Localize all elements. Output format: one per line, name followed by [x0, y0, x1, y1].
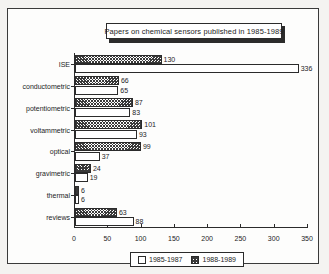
y-axis-category-label: reviews: [46, 214, 70, 221]
y-axis-category-label: gravimetric: [36, 170, 70, 177]
white-square-swatch: [138, 256, 146, 264]
bar-group: optical9937: [74, 141, 307, 163]
bar-group: gravimetric2419: [74, 162, 307, 184]
bar-value-label: 336: [301, 64, 313, 73]
bar-hatched: [75, 208, 117, 217]
bar-group: reviews6388: [74, 206, 307, 228]
bar-value-label: 99: [143, 142, 151, 151]
bar-value-label: 93: [139, 130, 147, 139]
bar-white: [75, 173, 88, 182]
bar-hatched: [75, 98, 133, 107]
bar-value-label: 101: [144, 120, 156, 129]
bar-hatched: [75, 120, 142, 129]
bar-white: [75, 86, 118, 95]
bar-value-label: 63: [119, 208, 127, 217]
legend-label: 1985-1987: [149, 256, 182, 263]
bar-value-label: 87: [135, 98, 143, 107]
y-axis-tick: [71, 195, 74, 196]
y-axis-tick: [71, 173, 74, 174]
x-axis-tick-label: 250: [235, 235, 247, 242]
legend-label: 1988-1989: [202, 256, 235, 263]
bar-hatched: [75, 142, 141, 151]
plot-area: ISE130336conductometric6665potentiometri…: [74, 53, 307, 228]
bar-group: thermal66: [74, 184, 307, 206]
x-axis-tick-label: 300: [268, 235, 280, 242]
x-axis-tick-label: 0: [72, 235, 76, 242]
x-axis-tick-label: 150: [168, 235, 180, 242]
page-title: Papers on chemical sensors published in …: [104, 26, 283, 35]
x-axis-tick-label: 200: [201, 235, 213, 242]
bar-hatched: [75, 164, 91, 173]
bar-white: [75, 108, 130, 117]
y-axis-tick: [71, 108, 74, 109]
bar-group: ISE130336: [74, 53, 307, 75]
y-axis-category-label: ISE: [59, 60, 70, 67]
bar-value-label: 37: [102, 152, 110, 161]
hatched-square-swatch: [191, 256, 199, 264]
y-axis-tick: [71, 151, 74, 152]
y-axis-category-label: conductometric: [23, 82, 70, 89]
y-axis-category-label: voltammetric: [30, 126, 70, 133]
bar-group: potentiometric8783: [74, 97, 307, 119]
chart-legend: 1985-19871988-1989: [130, 252, 244, 267]
bar-group: voltammetric10193: [74, 119, 307, 141]
chart-figure-frame: Papers on chemical sensors published in …: [7, 8, 319, 264]
x-axis-tick-label: 50: [103, 235, 111, 242]
y-axis-tick: [71, 86, 74, 87]
bar-white: [75, 152, 100, 161]
y-axis-tick: [71, 130, 74, 131]
bar-value-label: 88: [136, 217, 144, 226]
bar-value-label: 130: [164, 55, 176, 64]
bar-white: [75, 217, 134, 226]
y-axis-category-label: potentiometric: [26, 104, 70, 111]
bar-value-label: 83: [132, 108, 140, 117]
x-axis-tick-labels: 050100150200250300350: [74, 228, 307, 244]
bar-hatched: [75, 76, 119, 85]
y-axis-tick: [71, 64, 74, 65]
bar-group: conductometric6665: [74, 75, 307, 97]
bar-value-label: 66: [121, 76, 129, 85]
bar-value-label: 6: [81, 186, 85, 195]
bar-value-label: 19: [90, 173, 98, 182]
x-axis-tick-label: 350: [301, 235, 313, 242]
bar-value-label: 6: [81, 195, 85, 204]
bar-value-label: 65: [120, 86, 128, 95]
legend-entry: 1988-1989: [191, 256, 235, 264]
bar-white: [75, 64, 299, 73]
scanned-page: Papers on chemical sensors published in …: [0, 0, 329, 274]
x-axis-tick: [307, 224, 308, 228]
bar-hatched: [75, 186, 79, 195]
x-axis-tick-label: 100: [135, 235, 147, 242]
bar-white: [75, 130, 137, 139]
y-axis-category-label: thermal: [47, 192, 70, 199]
y-axis-category-label: optical: [50, 148, 70, 155]
bar-value-label: 24: [93, 164, 101, 173]
y-axis-tick: [71, 217, 74, 218]
legend-entry: 1985-1987: [138, 256, 182, 264]
bar-white: [75, 195, 79, 204]
chart-title-box: Papers on chemical sensors published in …: [106, 23, 282, 39]
bar-hatched: [75, 55, 162, 64]
